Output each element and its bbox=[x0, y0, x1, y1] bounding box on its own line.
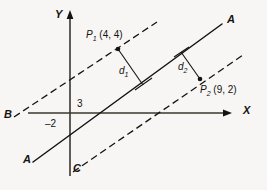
p2-label-main: P bbox=[200, 84, 207, 95]
y-axis-arrowhead bbox=[67, 10, 74, 19]
line-a-upper-label: A bbox=[227, 14, 235, 25]
y-intercept-label: –2 bbox=[45, 119, 56, 129]
x-axis-arrowhead bbox=[223, 110, 232, 117]
p1-label-sub: 1 bbox=[93, 35, 97, 42]
p1-label-coords: (4, 4) bbox=[99, 29, 122, 40]
d2-label-sub: 2 bbox=[184, 67, 188, 74]
d1-label-sub: 1 bbox=[125, 71, 129, 78]
d2-label: d2 bbox=[178, 62, 187, 74]
line-b-label: B bbox=[4, 109, 12, 120]
d1-foot-tick bbox=[135, 78, 152, 90]
geometry-figure: Y X 3 –2 A A B C P1 (4, 4) P2 (9, 2) d1 … bbox=[0, 0, 267, 190]
x-axis-label: X bbox=[243, 105, 250, 116]
axis-x bbox=[28, 110, 232, 117]
p1-label-main: P bbox=[86, 29, 93, 40]
d1-label: d1 bbox=[119, 66, 128, 78]
d2-head-tick bbox=[174, 47, 189, 57]
p2-label-sub: 2 bbox=[207, 90, 211, 97]
p2-label: P2 (9, 2) bbox=[200, 85, 237, 97]
p1-point-marker bbox=[116, 47, 121, 52]
p1-label: P1 (4, 4) bbox=[86, 30, 123, 42]
y-axis-label: Y bbox=[55, 9, 62, 20]
line-a-lower-label: A bbox=[23, 154, 31, 165]
p2-label-coords: (9, 2) bbox=[213, 84, 236, 95]
line-a-solid bbox=[33, 24, 222, 162]
x-intercept-label: 3 bbox=[77, 99, 83, 109]
line-c-label: C bbox=[73, 163, 81, 174]
axis-y bbox=[67, 10, 74, 176]
p2-point-marker bbox=[198, 77, 203, 82]
